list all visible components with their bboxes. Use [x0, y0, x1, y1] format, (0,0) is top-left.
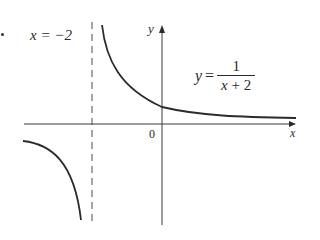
equation-label: y = 1 x + 2 — [195, 59, 255, 93]
fraction-denominator: x + 2 — [221, 76, 251, 93]
y-axis-label: y — [148, 22, 154, 35]
denominator-variable: x — [221, 77, 228, 93]
origin-label: 0 — [149, 128, 155, 140]
y-axis-arrow-icon — [159, 25, 165, 33]
denominator-constant: + 2 — [228, 77, 251, 93]
equation-lhs: y — [195, 67, 202, 85]
x-axis-label: x — [290, 127, 295, 139]
equation-fraction: 1 x + 2 — [217, 59, 255, 93]
equation-equals: = — [205, 67, 214, 85]
fraction-numerator: 1 — [232, 59, 240, 75]
curve-left-branch — [23, 141, 81, 220]
asymptote-label: x = −2 — [30, 28, 72, 43]
